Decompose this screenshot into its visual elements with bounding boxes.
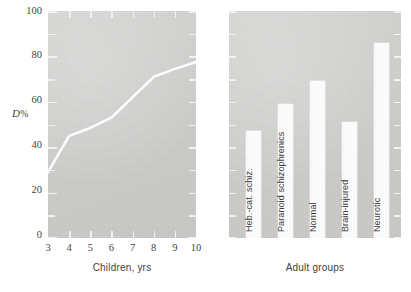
line-chart-panel: 100 80 60 40 20 0 D% (0, 0, 205, 292)
y-axis-title-percent: % (20, 109, 28, 119)
bar-label-brain-injured: Brain-injured (341, 206, 350, 238)
y-tick-label-20: 20 (0, 185, 42, 196)
x-tick-label-4: 4 (59, 243, 79, 254)
line-series (48, 11, 196, 238)
bar-chart-panel: Heb.-cat. schiz. Paranoid schizophrenics… (205, 0, 411, 292)
x-tick-label-6: 6 (101, 243, 121, 254)
y-tick-label-60: 60 (0, 95, 42, 106)
y-axis-title-text: D (12, 107, 20, 119)
bar-chart-plot-area: Heb.-cat. schiz. Paranoid schizophrenics… (229, 11, 401, 238)
y-tick-label-0: 0 (0, 230, 42, 241)
line-chart-plot-area (48, 11, 196, 238)
bar-normal: Normal (310, 81, 325, 238)
bar-heb-cat-schiz: Heb.-cat. schiz. (246, 131, 261, 238)
y-tick-label-100: 100 (0, 6, 42, 17)
x-tick-label-8: 8 (144, 243, 164, 254)
x-axis-title-adult-groups: Adult groups (229, 262, 401, 273)
x-tick-label-7: 7 (123, 243, 143, 254)
x-tick-label-9: 9 (165, 243, 185, 254)
bar-label-heb-cat-schiz: Heb.-cat. schiz. (245, 200, 254, 238)
x-axis-title-children: Children, yrs (48, 262, 196, 273)
bar-label-neurotic: Neurotic (373, 215, 382, 238)
x-tick-label-10: 10 (186, 243, 206, 254)
y-tick-label-80: 80 (0, 50, 42, 61)
bar-brain-injured: Brain-injured (342, 122, 357, 238)
x-tick-label-3: 3 (38, 243, 58, 254)
figure-root: 100 80 60 40 20 0 D% (0, 0, 411, 292)
bar-label-paranoid-schizophrenics: Paranoid schizophrenics (277, 182, 286, 238)
x-tick-label-5: 5 (80, 243, 100, 254)
y-axis-title: D% (12, 108, 28, 120)
y-tick-label-40: 40 (0, 140, 42, 151)
bar-label-normal: Normal (309, 217, 318, 238)
bar-neurotic: Neurotic (374, 43, 389, 238)
bar-paranoid-schizophrenics: Paranoid schizophrenics (278, 104, 293, 238)
